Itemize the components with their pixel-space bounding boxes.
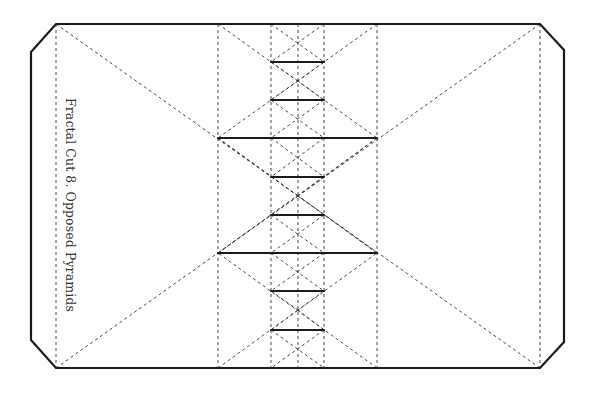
fold-line	[271, 310, 298, 330]
fold-line	[56, 196, 298, 368]
fold-lines	[56, 24, 540, 368]
diagram-title: Fractal Cut 8. Opposed Pyramids	[58, 98, 78, 312]
fold-line	[298, 196, 540, 368]
fold-line	[298, 24, 540, 196]
fold-line	[271, 62, 298, 81]
fold-line	[298, 310, 324, 330]
fractal-cut-diagram	[0, 0, 589, 394]
